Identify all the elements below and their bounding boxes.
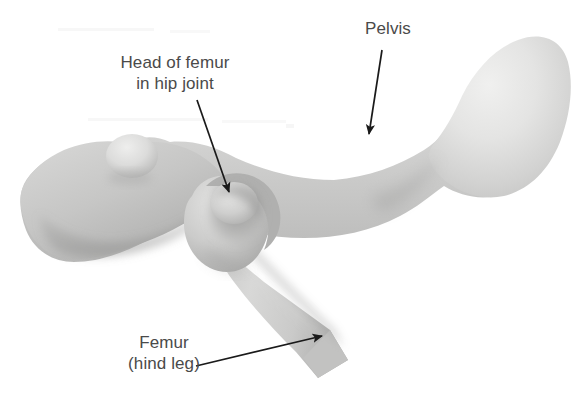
label-head-of-femur: Head of femur in hip joint [95, 52, 255, 94]
label-head-of-femur-line1: Head of femur [95, 52, 255, 73]
structure-pelvis-blade [429, 37, 571, 198]
label-femur-line2: (hind leg) [88, 353, 240, 374]
label-femur-line1: Femur [88, 332, 240, 353]
label-pelvis-line1: Pelvis [340, 18, 436, 39]
anatomy-figure: Head of femur in hip joint Pelvis Femur … [0, 0, 573, 410]
label-pelvis: Pelvis [340, 18, 436, 39]
label-femur: Femur (hind leg) [88, 332, 240, 374]
pelvis-bump-crease [108, 171, 152, 185]
hip-joint-illustration [0, 0, 573, 410]
pelvis-arrow [369, 50, 382, 134]
label-head-of-femur-line2: in hip joint [95, 73, 255, 94]
